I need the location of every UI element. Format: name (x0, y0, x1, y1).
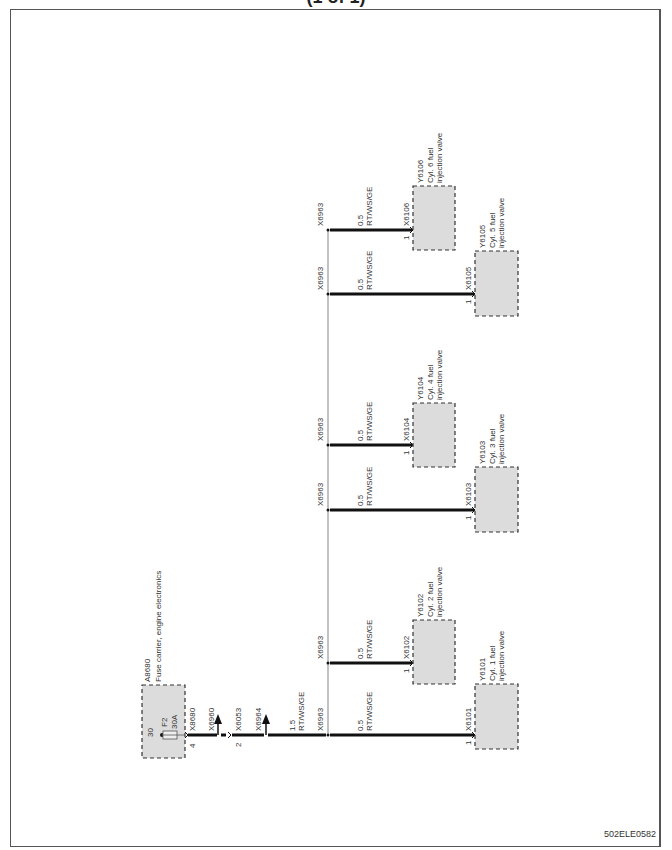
wire-color: RT/WS/GE (365, 402, 374, 441)
wire-gauge: 0.5 (356, 648, 365, 659)
wiring-diagram (0, 0, 672, 850)
splice-label: X6963 (316, 636, 325, 659)
feed-wire-color: RT/WS/GE (297, 692, 306, 731)
component-desc-2: injection valve (497, 414, 506, 464)
injector-y6101-box (475, 684, 518, 749)
connector-x6053-icon (228, 732, 231, 738)
component-desc: Cyl. 4 fuel (426, 364, 435, 400)
fuse-pin: 4 (188, 744, 197, 748)
connector-label: X6101 (464, 708, 473, 731)
component-desc: Cyl. 3 fuel (488, 428, 497, 464)
wire-color: RT/WS/GE (365, 467, 374, 506)
component-id: Y6101 (478, 658, 487, 681)
connector-label: X6104 (402, 418, 411, 441)
component-desc: Cyl. 2 fuel (426, 581, 435, 617)
fuse-id: F2 (160, 718, 169, 727)
fuse-carrier-id: A8680 (143, 659, 152, 682)
document-id: 502ELE0582 (604, 829, 656, 839)
wire-gauge: 0.5 (356, 215, 365, 226)
connector-pin: 1 (402, 451, 411, 455)
connector-pin: 1 (464, 300, 473, 304)
wire-gauge: 0.5 (356, 720, 365, 731)
connector-pin: 1 (402, 669, 411, 673)
injector-y6106-box (413, 186, 455, 250)
wire-color: RT/WS/GE (365, 251, 374, 290)
component-desc-2: injection valve (497, 631, 506, 681)
feed-splice-label: X6963 (316, 708, 325, 731)
connector-label: X6102 (402, 636, 411, 659)
wire-gauge: 0.5 (356, 430, 365, 441)
injector-y6103-box (475, 467, 518, 532)
component-desc: Cyl. 1 fuel (488, 645, 497, 681)
component-id: Y6104 (416, 377, 425, 400)
connector-label: X6106 (402, 203, 411, 226)
component-desc-2: injection valve (435, 567, 444, 617)
connector-pin: 1 (402, 236, 411, 240)
fuse-rating: 30A (170, 715, 179, 729)
component-id: Y6106 (416, 160, 425, 183)
component-desc-2: injection valve (435, 133, 444, 183)
wire-color: RT/WS/GE (365, 692, 374, 731)
splice-label: X6963 (316, 203, 325, 226)
connector-x6964-label: X6964 (254, 708, 263, 731)
wire-color: RT/WS/GE (365, 620, 374, 659)
connector-pin: 1 (464, 741, 473, 745)
wire-gauge: 0.5 (356, 495, 365, 506)
connector-x6053-pin: 2 (234, 743, 243, 747)
component-id: Y6103 (478, 441, 487, 464)
connector-x6960-label: X6960 (207, 708, 216, 731)
injector-y6104-box (413, 403, 455, 467)
component-id: Y6105 (478, 225, 487, 248)
component-desc-2: injection valve (435, 350, 444, 400)
fuse-terminal: 30 (146, 728, 155, 737)
connector-x8680-label: X8680 (188, 708, 197, 731)
component-desc: Cyl. 6 fuel (426, 147, 435, 183)
connector-x6053-label: X6053 (234, 708, 243, 731)
connector-label: X6103 (464, 483, 473, 506)
splice-label: X6963 (316, 267, 325, 290)
fuse-carrier-label: Fuse carrier, engine electronics (154, 571, 163, 682)
splice-label: X6963 (316, 483, 325, 506)
feed-wire-gauge: 1.5 (288, 720, 297, 731)
injector-y6105-box (475, 251, 518, 316)
arrow-up-icon (262, 714, 270, 724)
injector-y6102-box (413, 620, 455, 684)
wire-color: RT/WS/GE (365, 187, 374, 226)
component-desc: Cyl. 5 fuel (488, 212, 497, 248)
component-desc-2: injection valve (497, 198, 506, 248)
component-id: Y6102 (416, 594, 425, 617)
wire-gauge: 0.5 (356, 279, 365, 290)
splice-label: X6963 (316, 418, 325, 441)
connector-label: X6105 (464, 267, 473, 290)
connector-pin: 1 (464, 516, 473, 520)
